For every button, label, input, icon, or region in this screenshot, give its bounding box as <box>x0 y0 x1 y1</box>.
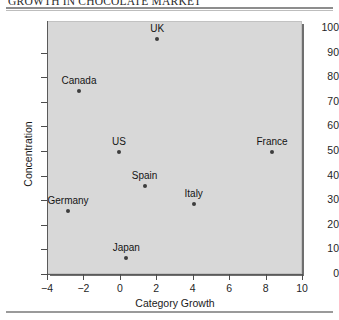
x-tick-label: 8 <box>246 282 286 294</box>
y-tick-label: 50 <box>305 144 339 156</box>
x-tick-label: 0 <box>100 282 140 294</box>
x-tick-label: 2 <box>136 282 176 294</box>
y-tick-mark <box>41 53 47 54</box>
title-divider-top <box>6 7 333 9</box>
x-tick-mark <box>266 274 267 280</box>
y-tick-mark <box>41 200 47 201</box>
x-axis-title: Category Growth <box>47 297 303 309</box>
y-tick-mark <box>41 225 47 226</box>
y-tick-label: 10 <box>305 242 339 254</box>
y-tick-mark <box>41 102 47 103</box>
x-tick-mark <box>302 274 303 280</box>
x-tick-mark <box>120 274 121 280</box>
data-point-label: France <box>256 136 287 147</box>
data-point <box>117 150 121 154</box>
data-point <box>192 202 196 206</box>
y-tick-label: 90 <box>305 46 339 58</box>
x-tick-label: −4 <box>27 282 67 294</box>
chart-title: GROWTH IN CHOCOLATE MARKET <box>8 0 201 7</box>
y-tick-label: 70 <box>305 95 339 107</box>
data-point <box>143 184 147 188</box>
data-point-label: US <box>112 136 126 147</box>
y-axis-title: Concentration <box>22 79 34 229</box>
y-tick-label: 60 <box>305 119 339 131</box>
y-tick-label: 20 <box>305 218 339 230</box>
x-tick-mark <box>193 274 194 280</box>
y-tick-label: 0 <box>305 267 339 279</box>
data-point <box>155 37 159 41</box>
x-tick-label: 10 <box>282 282 322 294</box>
y-tick-mark <box>41 176 47 177</box>
data-point <box>77 89 81 93</box>
x-tick-label: 6 <box>209 282 249 294</box>
y-tick-label: 40 <box>305 169 339 181</box>
x-tick-label: −2 <box>63 282 103 294</box>
y-tick-mark <box>41 151 47 152</box>
data-point-label: Germany <box>47 195 88 206</box>
x-tick-mark <box>47 274 48 280</box>
data-point-label: UK <box>150 23 164 34</box>
data-point-label: Spain <box>132 170 158 181</box>
x-tick-mark <box>156 274 157 280</box>
chart-figure: GROWTH IN CHOCOLATE MARKET UKCanadaUSFra… <box>0 0 339 320</box>
plot-area: UKCanadaUSFranceSpainItalyGermanyJapan <box>47 21 302 274</box>
data-point <box>270 150 274 154</box>
y-tick-mark <box>41 77 47 78</box>
y-tick-mark <box>41 126 47 127</box>
x-tick-mark <box>229 274 230 280</box>
data-point <box>124 256 128 260</box>
data-point-label: Italy <box>185 188 203 199</box>
data-point-label: Japan <box>113 242 140 253</box>
y-tick-label: 30 <box>305 193 339 205</box>
data-point-label: Canada <box>61 75 96 86</box>
y-axis-line <box>47 21 48 275</box>
y-tick-label: 100 <box>305 21 339 33</box>
x-tick-label: 4 <box>173 282 213 294</box>
data-point <box>66 209 70 213</box>
y-tick-label: 80 <box>305 70 339 82</box>
y-tick-mark <box>41 249 47 250</box>
x-tick-mark <box>83 274 84 280</box>
figure-divider-bottom <box>6 311 333 313</box>
